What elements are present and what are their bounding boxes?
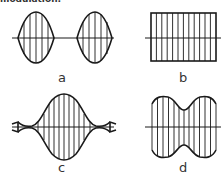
panel-label-d: d xyxy=(179,160,187,175)
panel-d: d xyxy=(145,96,221,175)
panel-label-b: b xyxy=(179,70,187,85)
panel-label-c: c xyxy=(58,160,65,175)
panel-label-a: a xyxy=(58,70,66,85)
panel-c: c xyxy=(12,94,116,175)
carrier-lines xyxy=(156,13,210,61)
panel-a: a xyxy=(12,12,114,85)
panel-b: b xyxy=(145,13,221,85)
envelope-upper xyxy=(152,97,216,110)
modulation-diagram: a b xyxy=(0,0,224,182)
envelope-lower xyxy=(152,145,216,157)
